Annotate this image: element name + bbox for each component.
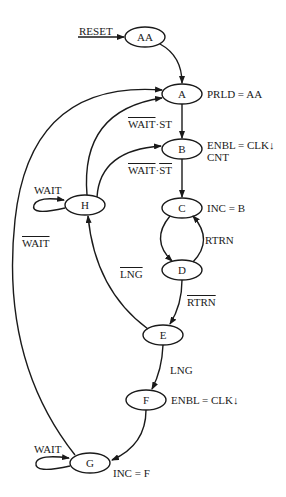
output-G: INC = F <box>113 467 150 479</box>
label-G-self: WAIT <box>34 443 62 455</box>
state-label-AA: AA <box>125 31 165 43</box>
output-A: PRLD = AA <box>207 88 262 100</box>
label-reset: RESET <box>79 25 113 37</box>
label-D-C: RTRN <box>205 234 234 246</box>
state-label-G: G <box>70 457 110 469</box>
label-E-F: LNG <box>170 364 193 376</box>
label-E-H: LNG <box>120 268 143 280</box>
label-H-self: WAIT <box>34 184 62 196</box>
state-label-B: B <box>162 143 202 155</box>
state-label-D: D <box>162 264 202 276</box>
label-A-B: WAIT·ST <box>128 118 172 130</box>
state-label-A: A <box>162 88 202 100</box>
label-G-A: WAIT <box>22 237 50 249</box>
state-label-E: E <box>143 329 183 341</box>
state-label-H: H <box>65 199 105 211</box>
output-F: ENBL = CLK↓ <box>171 394 239 406</box>
label-D-E: RTRN <box>187 296 216 308</box>
output-C: INC = B <box>207 202 245 214</box>
label-H-B: WAIT·ST <box>128 164 172 176</box>
output-B: ENBL = CLK↓ <box>207 139 275 151</box>
state-label-C: C <box>162 202 202 214</box>
state-diagram: AA A B C D E F G H PRLD = AA ENBL = CLK↓… <box>0 0 286 497</box>
state-label-F: F <box>126 394 166 406</box>
output-B-2: CNT <box>207 151 229 163</box>
